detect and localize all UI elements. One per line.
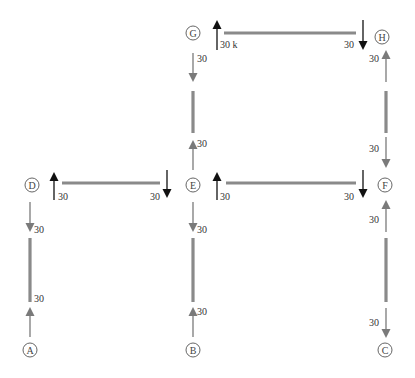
forces-layer: 30 k303030303030303030303030303030 (26, 20, 391, 338)
force-C-above-down: 30 (369, 308, 391, 338)
force-E-left-down: 30 (150, 170, 172, 202)
arrow-up-icon (26, 307, 35, 316)
force-E-right-up: 30 (213, 172, 231, 202)
force-magnitude-label: 30 (344, 39, 354, 50)
force-magnitude-label: 30 (220, 191, 230, 202)
force-magnitude-label: 30 (344, 191, 354, 202)
node-label: H (378, 32, 385, 43)
node-label: C (382, 345, 389, 356)
node-label: D (28, 180, 35, 191)
force-magnitude-label: 30 (369, 143, 379, 154)
force-B-above-up: 30 (189, 306, 208, 337)
force-F-left-down: 30 (344, 170, 368, 202)
arrow-down-icon (382, 329, 391, 338)
force-magnitude-label: 30 k (220, 39, 238, 50)
force-magnitude-label: 30 (197, 53, 207, 64)
arrow-up-icon (50, 172, 59, 181)
force-F-below-up: 30 (369, 200, 391, 232)
node-a: A (23, 343, 37, 357)
diagram-canvas: 30 k303030303030303030303030303030 ABCDE… (0, 0, 415, 378)
arrow-down-icon (382, 159, 391, 168)
force-magnitude-label: 30 (150, 191, 160, 202)
arrow-down-icon (359, 189, 368, 198)
arrow-up-icon (213, 20, 222, 29)
force-F-above-down: 30 (369, 137, 391, 168)
members-layer (30, 33, 386, 302)
arrow-up-icon (213, 172, 222, 181)
node-label: B (190, 345, 197, 356)
node-e: E (186, 178, 200, 192)
node-label: G (189, 28, 196, 39)
node-label: A (26, 345, 34, 356)
force-G-below-down: 30 (189, 53, 208, 82)
force-magnitude-label: 30 (34, 224, 44, 235)
node-label: F (382, 180, 388, 191)
force-GH-H-down: 30 (344, 20, 368, 50)
node-g: G (186, 26, 200, 40)
node-c: C (378, 343, 392, 357)
arrow-down-icon (189, 73, 198, 82)
arrow-down-icon (359, 41, 368, 50)
arrow-up-icon (382, 50, 391, 59)
force-magnitude-label: 30 (197, 306, 207, 317)
arrow-up-icon (382, 200, 391, 209)
arrow-down-icon (163, 189, 172, 198)
force-E-above-up: 30 (189, 138, 208, 170)
force-E-below-down: 30 (189, 202, 208, 235)
node-f: F (378, 178, 392, 192)
force-D-below-down: 30 (26, 202, 45, 235)
force-H-below-up: 30 (369, 50, 391, 82)
node-h: H (375, 30, 389, 44)
truss-force-diagram: 30 k303030303030303030303030303030 ABCDE… (0, 0, 415, 378)
force-G-up: 30 k (213, 20, 238, 50)
force-magnitude-label: 30 (369, 53, 379, 64)
node-label: E (190, 180, 196, 191)
node-b: B (186, 343, 200, 357)
force-magnitude-label: 30 (34, 293, 44, 304)
force-magnitude-label: 30 (369, 317, 379, 328)
force-D-right-up: 30 (50, 172, 69, 202)
force-A-above-up: 30 (26, 293, 45, 337)
force-magnitude-label: 30 (197, 224, 207, 235)
nodes-layer: ABCDEFGH (23, 26, 392, 357)
force-magnitude-label: 30 (58, 191, 68, 202)
force-magnitude-label: 30 (197, 138, 207, 149)
force-magnitude-label: 30 (369, 214, 379, 225)
node-d: D (25, 178, 39, 192)
